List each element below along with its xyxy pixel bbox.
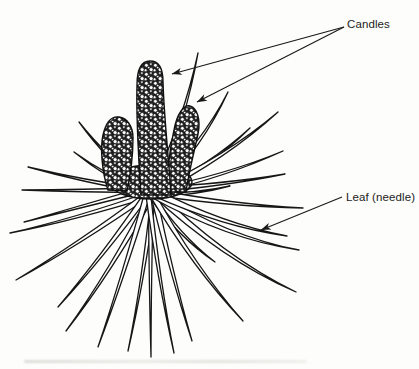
candles-arrow-1 (172, 27, 344, 74)
pine-shoot-illustration (0, 0, 419, 369)
candle-right (168, 106, 199, 192)
scan-artifact (24, 360, 307, 363)
leaf-arrow (261, 197, 342, 230)
candle-cluster (102, 61, 199, 199)
candles-arrow-2 (197, 27, 344, 102)
diagram-canvas: Candles Leaf (needle) (0, 0, 419, 369)
label-leaf-needle: Leaf (needle) (346, 192, 415, 204)
candle-center (137, 61, 171, 195)
label-candles: Candles (347, 19, 390, 31)
candle-left (102, 117, 133, 191)
